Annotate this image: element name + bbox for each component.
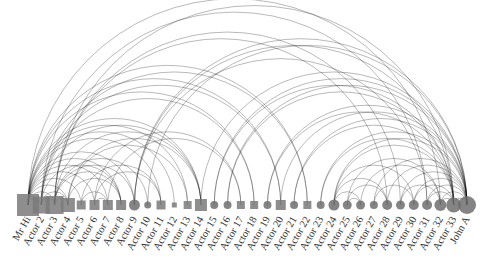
node-marker [116, 200, 126, 210]
node-marker [290, 201, 298, 209]
node-marker [129, 200, 140, 211]
node-marker [144, 202, 151, 209]
arc-diagram: Mr HiActor 2Actor 3Actor 4Actor 5Actor 6… [0, 0, 497, 276]
node-marker [458, 196, 476, 214]
node-marker [396, 201, 405, 210]
node-marker [195, 199, 207, 211]
edge-arc [374, 185, 414, 205]
node-marker [263, 201, 271, 209]
node-marker [343, 201, 352, 210]
node-labels: Mr HiActor 2Actor 3Actor 4Actor 5Actor 6… [10, 214, 472, 252]
edge-arc [28, 139, 161, 205]
node-marker [172, 203, 177, 208]
edge-arc [28, 79, 281, 205]
node-marker [303, 201, 311, 209]
node-marker [224, 201, 232, 209]
arc-edges [28, 0, 467, 205]
edge-arc [28, 92, 254, 205]
node-marker [46, 196, 64, 214]
node-marker [77, 201, 86, 210]
edge-arc [95, 132, 241, 205]
node-marker [276, 200, 286, 210]
node-marker [157, 201, 166, 210]
node-marker [328, 200, 339, 211]
node-marker [103, 200, 113, 210]
node-marker [370, 201, 378, 209]
node-marker [250, 201, 258, 209]
edge-arc [400, 185, 440, 205]
node-markers [17, 194, 476, 216]
node-marker [317, 201, 325, 209]
node-marker [382, 200, 392, 210]
node-marker [237, 201, 245, 209]
node-marker [434, 199, 446, 211]
node-marker [356, 201, 365, 210]
node-marker [210, 201, 218, 209]
node-marker [61, 198, 75, 212]
node-marker [422, 200, 432, 210]
node-marker [184, 201, 192, 209]
node-marker [90, 200, 100, 210]
node-marker [409, 200, 419, 210]
